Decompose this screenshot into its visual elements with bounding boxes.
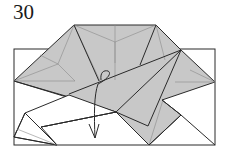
origami-diagram [0,0,225,158]
